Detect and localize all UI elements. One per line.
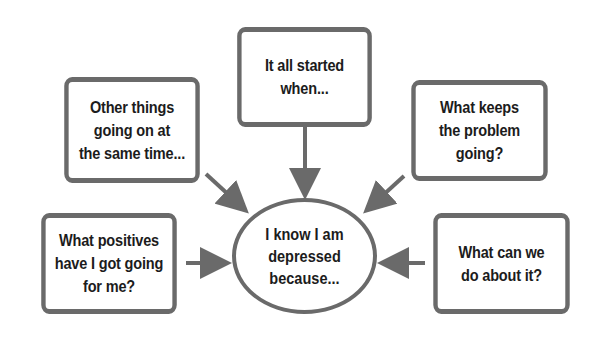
arrow-top-right-to-center bbox=[369, 176, 404, 208]
node-bottom-left: What positives have I got going for me? bbox=[41, 213, 177, 314]
node-top-right-text: What keeps the problem going? bbox=[439, 96, 520, 165]
node-bottom-right: What can we do about it? bbox=[433, 213, 569, 314]
node-bottom-right-text: What can we do about it? bbox=[458, 241, 544, 287]
center-node-text: I know I am depressed because... bbox=[265, 223, 343, 289]
arrow-top-left-to-center bbox=[206, 174, 243, 208]
center-node: I know I am depressed because... bbox=[232, 198, 377, 314]
node-top-left: Other things going on at the same time..… bbox=[64, 77, 200, 183]
node-top-right: What keeps the problem going? bbox=[411, 80, 547, 181]
node-bottom-left-text: What positives have I got going for me? bbox=[55, 229, 164, 298]
node-top-text: It all started when... bbox=[265, 54, 344, 100]
node-top-left-text: Other things going on at the same time..… bbox=[79, 96, 185, 165]
node-top: It all started when... bbox=[237, 27, 372, 127]
